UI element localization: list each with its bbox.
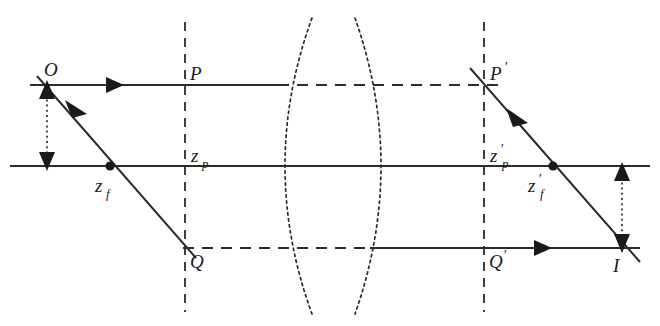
label-zf-prime-base: z (527, 175, 536, 196)
label-zp-prime-subscript: p (501, 156, 509, 171)
diagram-canvas: O P z p z f Q P ′ z ′ p z ′ f Q ′ I (0, 0, 660, 326)
oblique-ray-left-arrowhead-icon (65, 100, 87, 118)
upper-ray-arrowhead-icon (106, 77, 124, 93)
label-zp-prime-mark: ′ (500, 142, 504, 157)
label-focal-point-left: z f (94, 175, 112, 201)
label-q-prime-mark: ′ (503, 248, 507, 263)
label-zp-prime-base: z (489, 145, 498, 166)
label-zf-prime-subscript: f (540, 186, 546, 201)
lower-ray-group (183, 240, 640, 256)
image-height-arrow (614, 162, 630, 253)
label-p-prime-base: P (489, 63, 502, 84)
label-zp-base: z (190, 145, 199, 166)
focal-point-right-dot (548, 161, 557, 170)
label-p-prime-mark: ′ (504, 60, 508, 75)
label-focal-point-right: z ′ f (527, 172, 546, 201)
label-zf-subscript: f (106, 186, 112, 201)
object-height-arrow-head-down-icon (39, 152, 55, 171)
object-height-arrow (39, 80, 55, 171)
label-zf-prime-mark: ′ (538, 172, 542, 187)
label-image-point: I (612, 255, 621, 276)
oblique-ray-right-arrowhead-icon (506, 108, 528, 127)
label-principal-point-left: P (189, 63, 202, 84)
focal-point-left-dot (105, 161, 114, 170)
upper-ray-group (30, 77, 500, 93)
label-principal-plane-left: z p (190, 145, 209, 171)
object-height-arrow-head-up-icon (39, 80, 55, 99)
label-lower-ray-left: Q (190, 251, 204, 272)
lower-ray-arrowhead-icon (534, 240, 552, 256)
label-lower-ray-right: Q ′ (489, 248, 507, 272)
optics-ray-diagram: O P z p z f Q P ′ z ′ p z ′ f Q ′ I (0, 0, 660, 326)
label-object-point: O (44, 59, 58, 80)
label-zf-base: z (94, 175, 103, 196)
image-height-arrow-head-down-icon (614, 234, 630, 253)
label-q-prime-base: Q (489, 251, 503, 272)
label-principal-point-right: P ′ (489, 60, 508, 84)
image-height-arrow-head-up-icon (614, 162, 630, 181)
label-zp-subscript: p (201, 156, 209, 171)
